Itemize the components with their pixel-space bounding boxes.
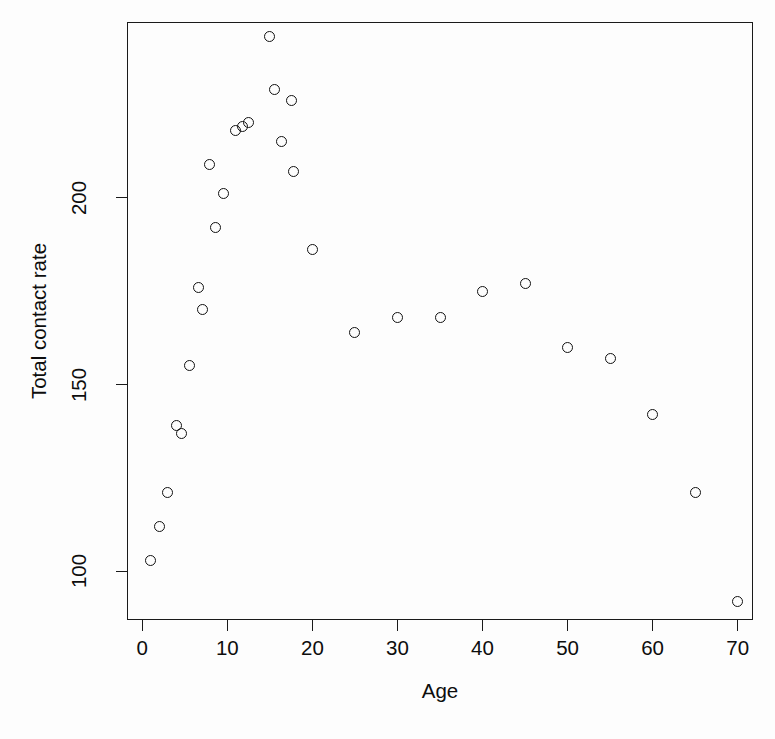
- data-point: [690, 487, 701, 498]
- data-point: [288, 166, 299, 177]
- data-point: [218, 188, 229, 199]
- data-point: [647, 409, 658, 420]
- y-axis-tick-label: 150: [67, 367, 91, 401]
- x-axis-tick-label: 10: [216, 636, 239, 660]
- y-axis-tick: [116, 384, 127, 386]
- data-point: [392, 312, 403, 323]
- data-point: [562, 342, 573, 353]
- data-point: [184, 360, 195, 371]
- data-point: [193, 282, 204, 293]
- data-point: [176, 428, 187, 439]
- data-point: [197, 304, 208, 315]
- x-axis-tick: [397, 620, 399, 631]
- data-points-layer: [127, 22, 753, 620]
- x-axis-tick: [142, 620, 144, 631]
- y-axis-tick: [116, 197, 127, 199]
- x-axis-tick-label: 70: [726, 636, 749, 660]
- x-axis-tick: [567, 620, 569, 631]
- data-point: [286, 95, 297, 106]
- data-point: [307, 244, 318, 255]
- x-axis-tick-label: 20: [301, 636, 324, 660]
- x-axis-tick-label: 0: [137, 636, 148, 660]
- data-point: [210, 222, 221, 233]
- x-axis-tick-label: 50: [556, 636, 579, 660]
- data-point: [520, 278, 531, 289]
- data-point: [145, 555, 156, 566]
- x-axis-title: Age: [422, 679, 458, 703]
- y-axis-tick-label: 100: [67, 554, 91, 588]
- x-axis-tick-label: 40: [471, 636, 494, 660]
- data-point: [435, 312, 446, 323]
- y-axis-tick: [116, 571, 127, 573]
- y-axis-title: Total contact rate: [27, 243, 51, 399]
- x-axis-tick-label: 60: [641, 636, 664, 660]
- data-point: [269, 84, 280, 95]
- x-axis-tick: [737, 620, 739, 631]
- x-axis-tick-label: 30: [386, 636, 409, 660]
- data-point: [264, 31, 275, 42]
- y-axis-tick-label: 200: [67, 181, 91, 215]
- data-point: [605, 353, 616, 364]
- x-axis-tick: [482, 620, 484, 631]
- data-point: [349, 327, 360, 338]
- data-point: [732, 596, 743, 607]
- data-point: [204, 159, 215, 170]
- data-point: [243, 117, 254, 128]
- data-point: [276, 136, 287, 147]
- x-axis-tick: [227, 620, 229, 631]
- data-point: [162, 487, 173, 498]
- scatter-plot-figure: 010203040506070100150200 Age Total conta…: [0, 0, 775, 739]
- x-axis-tick: [312, 620, 314, 631]
- data-point: [154, 521, 165, 532]
- x-axis-tick: [652, 620, 654, 631]
- data-point: [477, 286, 488, 297]
